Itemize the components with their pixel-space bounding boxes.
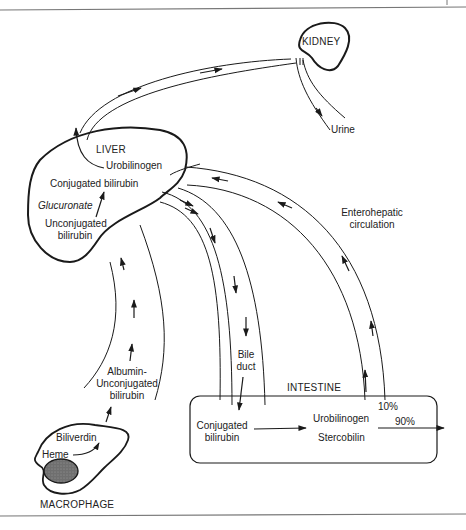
conj-to-uro-arrow [254, 428, 306, 429]
bile-duct-line1: Bile [234, 349, 258, 361]
enterohepatic-arrow-5 [365, 370, 366, 392]
macrophage-nucleus [44, 459, 78, 483]
top-rule [0, 7, 466, 10]
bile-duct-label: Bile duct [234, 349, 258, 373]
enterohepatic-label: Enterohepatic circulation [332, 207, 412, 231]
albumin-line3: bilirubin [92, 390, 162, 402]
bilirubin-diagram [0, 0, 466, 530]
excreted-pct-label: 90% [395, 416, 415, 428]
albumin-arrow-1 [121, 258, 124, 270]
macrophage-to-blood-arrow [106, 407, 111, 422]
liver-kidney-arrow-1 [118, 88, 141, 96]
intestine-label: INTESTINE [287, 382, 341, 394]
albumin-line1: Albumin- [92, 366, 162, 378]
albumin-label: Albumin- Unconjugated bilirubin [92, 366, 162, 402]
heme-to-biliverdin-arrow [73, 443, 99, 455]
albumin-arrow-3 [130, 344, 132, 361]
liver-kidney-arrow-2 [200, 69, 222, 73]
intestine-conjugated-line2: bilirubin [192, 432, 252, 444]
glucuronate-arrow [96, 192, 104, 217]
heme-label: Heme [42, 449, 69, 461]
bile-arrow-6 [239, 377, 243, 410]
liver-conjugated-label: Conjugated bilirubin [50, 178, 138, 190]
intestine-conjugated-line1: Conjugated [192, 420, 252, 432]
macrophage-label: MACROPHAGE [40, 499, 114, 511]
bile-arrow-3 [210, 228, 215, 243]
liver-unconjugated-line1: Unconjugated [45, 218, 105, 230]
intestine-urobilinogen-label: Urobilinogen [313, 413, 369, 425]
enterohepatic-line1: Enterohepatic [332, 207, 412, 219]
urine-label: Urine [331, 124, 355, 136]
glucuronate-label: Glucuronate [38, 200, 92, 212]
liver-unconjugated-line2: bilirubin [45, 230, 105, 242]
stercobilin-label: Stercobilin [318, 432, 365, 444]
bile-arrow-4 [234, 276, 236, 293]
enterohepatic-arrow-4 [371, 321, 373, 336]
albumin-line2: Unconjugated [92, 378, 162, 390]
biliverdin-label: Biliverdin [56, 432, 97, 444]
enterohepatic-line2: circulation [332, 219, 412, 231]
enterohepatic-arrow-2 [278, 202, 292, 208]
kidney-label: KIDNEY [302, 36, 340, 48]
bottom-rule [0, 514, 466, 516]
enterohepatic-arrow-1 [212, 178, 228, 181]
bile-duct-line2: duct [234, 361, 258, 373]
liver-label: LIVER [96, 144, 126, 156]
reabsorbed-pct-label: 10% [378, 401, 398, 413]
liver-unconjugated-label: Unconjugated bilirubin [45, 218, 105, 242]
liver-urobilinogen-label: Urobilinogen [106, 160, 162, 172]
urine-tube [296, 58, 345, 130]
intestine-conjugated-label: Conjugated bilirubin [192, 420, 252, 444]
enterohepatic-tube [170, 164, 385, 400]
